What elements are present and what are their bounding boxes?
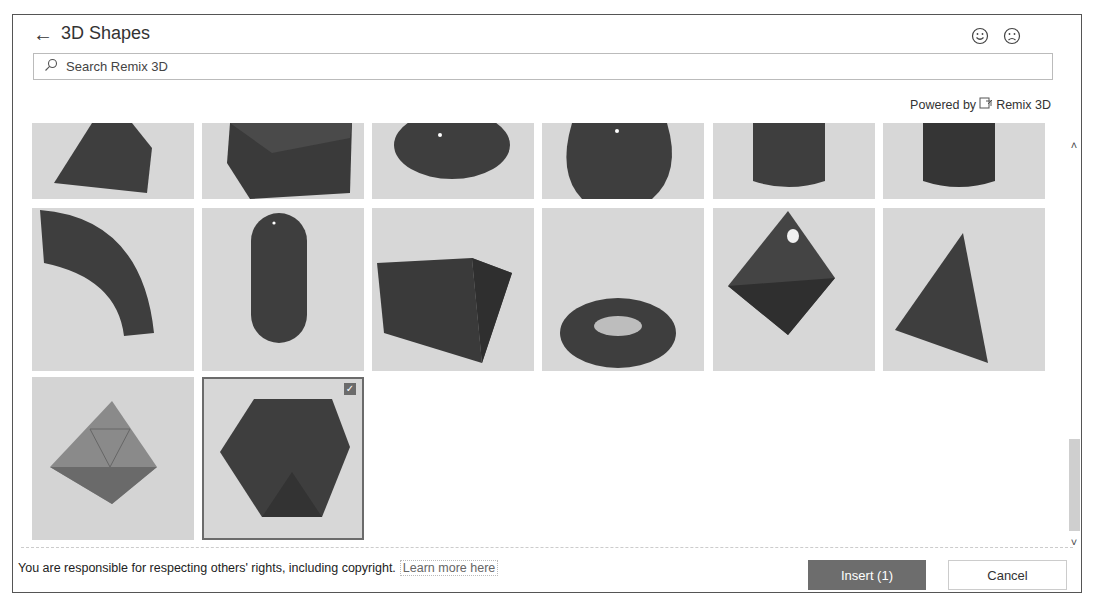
- tile-octahedron-faceted[interactable]: [32, 377, 194, 540]
- copyright-notice: You are responsible for respecting other…: [18, 561, 498, 575]
- capsule-thumbnail: [202, 208, 364, 371]
- powered-by: Powered by Remix 3D: [910, 97, 1051, 113]
- octahedron-thumbnail: [713, 208, 875, 371]
- arrow-left-icon[interactable]: ←: [33, 24, 53, 44]
- cancel-button[interactable]: Cancel: [948, 560, 1067, 590]
- search-icon: [44, 58, 58, 76]
- frown-icon[interactable]: [1003, 27, 1021, 45]
- tile-curved-pipe[interactable]: [32, 208, 194, 371]
- tetrahedron-thumbnail: [883, 208, 1045, 371]
- chevron-up-icon[interactable]: ˄: [1068, 139, 1080, 151]
- octahedron-faceted-thumbnail: [32, 377, 194, 540]
- tile-triangular-prism[interactable]: [372, 208, 534, 371]
- tile-hemisphere[interactable]: [542, 123, 704, 199]
- insert-button[interactable]: Insert (1): [808, 560, 926, 590]
- tile-tetrahedron[interactable]: [883, 208, 1045, 371]
- triangular-prism-thumbnail: [372, 208, 534, 371]
- tile-dodecahedron[interactable]: ✓: [202, 377, 364, 540]
- vertical-scrollbar[interactable]: ˄ ˅: [1068, 123, 1080, 548]
- feedback-buttons: [971, 27, 1021, 45]
- torus-thumbnail: [542, 208, 704, 371]
- tile-square-pyramid[interactable]: [32, 123, 194, 199]
- cylinder-tall-thumbnail: [883, 123, 1045, 199]
- powered-by-label: Powered by: [910, 98, 976, 112]
- header: ← 3D Shapes: [33, 23, 150, 44]
- hemisphere-thumbnail: [542, 123, 704, 199]
- cube-thumbnail: [202, 123, 364, 199]
- tile-torus[interactable]: [542, 208, 704, 371]
- dodecahedron-thumbnail: [202, 377, 364, 540]
- shape-grid: ✓: [32, 123, 1052, 543]
- 3d-shapes-dialog: ← 3D Shapes Powered by Remix 3D: [12, 14, 1082, 593]
- learn-more-link[interactable]: Learn more here: [400, 560, 498, 576]
- smiley-icon[interactable]: [971, 27, 989, 45]
- tile-cylinder-tall[interactable]: [883, 123, 1045, 199]
- footer-divider: [21, 547, 1073, 548]
- tile-ellipsoid[interactable]: [372, 123, 534, 199]
- tile-octahedron[interactable]: [713, 208, 875, 371]
- tile-cube[interactable]: [202, 123, 364, 199]
- cylinder-thumbnail: [713, 123, 875, 199]
- scrollbar-thumb[interactable]: [1069, 439, 1080, 531]
- selected-check-icon[interactable]: ✓: [344, 383, 356, 395]
- search-input[interactable]: [64, 58, 968, 75]
- remix3d-logo-icon: [979, 97, 993, 113]
- search-box[interactable]: [33, 53, 1053, 80]
- copyright-notice-text: You are responsible for respecting other…: [18, 561, 396, 575]
- tile-capsule[interactable]: [202, 208, 364, 371]
- powered-by-brand: Remix 3D: [996, 98, 1051, 112]
- tile-cylinder[interactable]: [713, 123, 875, 199]
- dialog-title: 3D Shapes: [61, 23, 150, 44]
- square-pyramid-thumbnail: [32, 123, 194, 199]
- curved-pipe-thumbnail: [32, 208, 194, 371]
- ellipsoid-thumbnail: [372, 123, 534, 199]
